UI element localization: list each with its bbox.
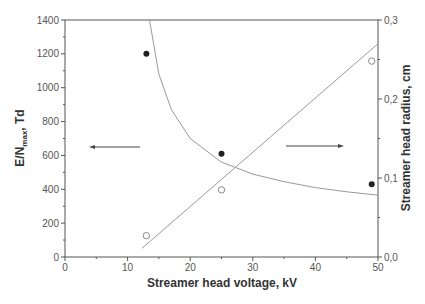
y-tick-label: 1400 [37, 15, 60, 26]
en-data-point [219, 151, 225, 157]
x-tick-label: 0 [62, 262, 68, 273]
y-tick-label: 1200 [37, 48, 60, 59]
y2-tick-label: 0,3 [384, 15, 398, 26]
y-axis-ticks: 0200400600800100012001400 [37, 15, 65, 263]
x-tick-label: 50 [372, 262, 384, 273]
en-data-point [143, 51, 149, 57]
y2-tick-label: 0,1 [384, 173, 398, 184]
y-tick-label: 1000 [37, 82, 60, 93]
y-axis-title: E/Nmax, Td [13, 109, 29, 166]
y-tick-label: 200 [42, 218, 59, 229]
y2-axis-ticks: 0,00,10,20,3 [378, 15, 398, 263]
x-tick-label: 30 [247, 262, 259, 273]
right-arrow-icon [286, 144, 344, 148]
left-arrow-icon [89, 145, 140, 149]
y-tick-label: 800 [42, 116, 59, 127]
x-tick-label: 20 [185, 262, 197, 273]
x-axis-title: Streamer head voltage, kV [147, 276, 297, 290]
y-tick-label: 400 [42, 184, 59, 195]
en-data-point [369, 181, 375, 187]
plot-frame [65, 20, 378, 257]
x-axis-ticks: 01020304050 [62, 257, 384, 273]
y2-tick-label: 0,0 [384, 252, 398, 263]
x-tick-label: 10 [122, 262, 134, 273]
y-tick-label: 600 [42, 150, 59, 161]
y2-tick-label: 0,2 [384, 94, 398, 105]
y2-axis-title: Streamer head radius, cm [399, 65, 413, 212]
radius-data-point [218, 187, 224, 193]
radius-data-point [369, 58, 375, 64]
en-fit-curve [150, 20, 379, 195]
radius-data-point [143, 232, 149, 238]
radius-data-points [143, 58, 375, 239]
chart: 01020304050 0200400600800100012001400 0,… [0, 0, 425, 304]
y-tick-label: 0 [53, 252, 59, 263]
x-tick-label: 40 [310, 262, 322, 273]
